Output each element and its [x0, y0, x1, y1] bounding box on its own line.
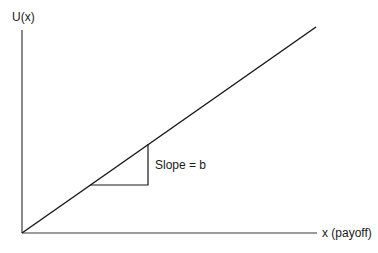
x-axis-label: x (payoff): [322, 226, 372, 240]
utility-diagram: [0, 0, 378, 253]
y-axis-label: U(x): [12, 10, 35, 24]
slope-label: Slope = b: [155, 158, 206, 172]
utility-line: [22, 27, 316, 233]
